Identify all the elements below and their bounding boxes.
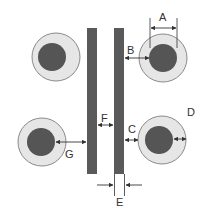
trace-left [87,28,97,174]
trace-right [114,28,124,174]
pcb-clearance-diagram: A B F C D G E [0,0,211,211]
label-b: B [127,45,134,56]
dimension-e [97,174,142,196]
label-e: E [116,197,123,208]
label-f: F [101,113,108,124]
label-a: A [159,12,166,23]
diagram-canvas [0,0,211,211]
label-d: D [187,107,195,118]
pad-top-left [32,33,80,81]
label-g: G [65,149,74,160]
pad-bottom-right [138,116,186,164]
label-c: C [128,124,136,135]
